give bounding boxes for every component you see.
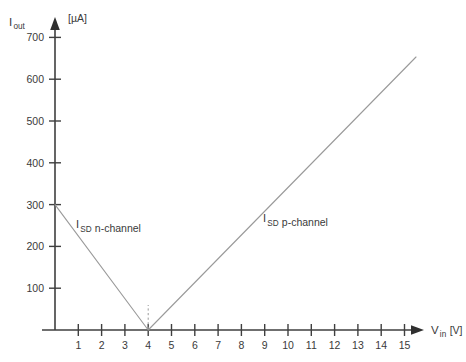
x-tick-label: 8 bbox=[238, 339, 244, 351]
y-tick-700: 700 bbox=[26, 31, 61, 43]
x-tick-8: 8 bbox=[238, 324, 244, 351]
y-tick-500: 500 bbox=[26, 115, 61, 127]
x-tick-9: 9 bbox=[262, 324, 268, 351]
x-tick-2: 2 bbox=[99, 324, 105, 351]
x-tick-3: 3 bbox=[122, 324, 128, 351]
y-axis-ticks: 700 600 500 400 300 200 bbox=[26, 31, 61, 294]
x-tick-label: 10 bbox=[282, 339, 294, 351]
curve-label-p-channel-text: p-channel bbox=[282, 216, 328, 228]
data-series-group bbox=[55, 57, 416, 330]
y-axis-subscript: out bbox=[13, 22, 25, 31]
x-axis-ticks: 1 2 3 4 5 6 7 bbox=[75, 324, 410, 351]
axis-group bbox=[42, 17, 424, 335]
y-tick-label: 500 bbox=[26, 115, 44, 127]
x-tick-label: 1 bbox=[75, 339, 81, 351]
x-tick-15: 15 bbox=[399, 324, 411, 351]
y-tick-label: 200 bbox=[26, 240, 44, 252]
chart-plot-area: 700 600 500 400 300 200 bbox=[0, 0, 466, 362]
y-tick-label: 400 bbox=[26, 157, 44, 169]
y-tick-200: 200 bbox=[26, 240, 61, 252]
x-tick-label: 11 bbox=[306, 339, 317, 351]
x-tick-14: 14 bbox=[375, 324, 387, 351]
curve-label-n-channel-symbol: I bbox=[76, 218, 79, 230]
curve-label-p-channel-subscript: SD bbox=[267, 219, 278, 228]
x-tick-1: 1 bbox=[75, 324, 81, 351]
x-tick-label: 3 bbox=[122, 339, 128, 351]
x-axis-title: Vin[V] bbox=[431, 324, 463, 339]
y-tick-400: 400 bbox=[26, 157, 61, 169]
x-axis-subscript: in bbox=[440, 330, 447, 339]
x-axis-unit: [V] bbox=[450, 324, 463, 336]
series-line-p-channel bbox=[148, 57, 416, 330]
x-tick-label: 2 bbox=[99, 339, 105, 351]
x-tick-12: 12 bbox=[329, 324, 341, 351]
y-tick-100: 100 bbox=[26, 282, 61, 294]
x-tick-label: 12 bbox=[329, 339, 341, 351]
curve-label-n-channel-text: n-channel bbox=[95, 222, 141, 234]
chart-container: 700 600 500 400 300 200 bbox=[0, 0, 466, 362]
y-axis-symbol: I bbox=[9, 16, 12, 28]
x-tick-label: 7 bbox=[215, 339, 221, 351]
y-axis-arrow-icon bbox=[50, 17, 60, 30]
x-tick-7: 7 bbox=[215, 324, 221, 351]
curve-label-p-channel: ISDp-channel bbox=[263, 212, 328, 228]
x-tick-13: 13 bbox=[352, 324, 364, 351]
y-axis-title: Iout bbox=[9, 16, 26, 31]
y-tick-label: 600 bbox=[26, 73, 44, 85]
y-tick-label: 700 bbox=[26, 31, 44, 43]
x-axis-arrow-icon bbox=[411, 325, 424, 335]
x-tick-label: 14 bbox=[375, 339, 387, 351]
x-tick-label: 13 bbox=[352, 339, 364, 351]
x-tick-label: 5 bbox=[169, 339, 175, 351]
y-tick-300: 300 bbox=[26, 199, 61, 211]
y-tick-label: 100 bbox=[26, 282, 44, 294]
curve-label-n-channel-subscript: SD bbox=[80, 225, 91, 234]
x-tick-11: 11 bbox=[306, 324, 317, 351]
x-tick-5: 5 bbox=[169, 324, 175, 351]
x-tick-label: 15 bbox=[399, 339, 411, 351]
y-tick-label: 300 bbox=[26, 199, 44, 211]
x-tick-label: 9 bbox=[262, 339, 268, 351]
y-tick-600: 600 bbox=[26, 73, 61, 85]
curve-label-n-channel: ISDn-channel bbox=[76, 218, 141, 234]
x-tick-label: 4 bbox=[145, 339, 151, 351]
x-tick-label: 6 bbox=[192, 339, 198, 351]
curve-label-p-channel-symbol: I bbox=[263, 212, 266, 224]
y-axis-unit: [µA] bbox=[68, 12, 87, 24]
x-tick-10: 10 bbox=[282, 324, 294, 351]
x-tick-6: 6 bbox=[192, 324, 198, 351]
x-axis-symbol: V bbox=[431, 324, 439, 336]
